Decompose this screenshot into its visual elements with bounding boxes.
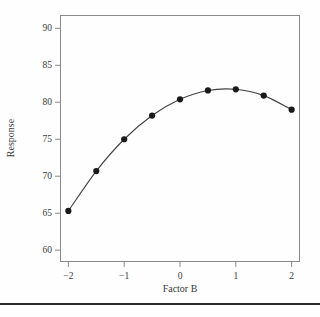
data-point-marker [65, 208, 71, 214]
y-tick-label: 70 [28, 171, 52, 181]
data-point-marker [177, 96, 183, 102]
y-tick-label: 90 [28, 23, 52, 33]
x-tick-label: 2 [289, 271, 294, 281]
response-curve-line [68, 89, 291, 211]
x-axis-title: Factor B [163, 283, 198, 294]
x-tick-label: −1 [119, 271, 129, 281]
x-tick-label: 0 [178, 271, 183, 281]
data-point-marker [261, 93, 267, 99]
figure-container: 60657075808590 −2−1012 Response Factor B [0, 0, 320, 317]
x-tick-label: −2 [63, 271, 73, 281]
y-tick-label: 75 [28, 134, 52, 144]
data-point-marker [233, 86, 239, 92]
y-axis-ticks [55, 28, 60, 250]
data-point-marker [289, 107, 295, 113]
x-axis-ticks [68, 262, 291, 267]
data-point-marker [205, 87, 211, 93]
data-point-marker [93, 168, 99, 174]
y-tick-label: 85 [28, 60, 52, 70]
y-tick-label: 80 [28, 97, 52, 107]
chart-canvas [0, 0, 320, 317]
x-tick-label: 1 [233, 271, 238, 281]
response-data-points [65, 86, 294, 214]
y-tick-label: 60 [28, 245, 52, 255]
bottom-divider-rule [0, 303, 320, 305]
data-point-marker [121, 136, 127, 142]
y-tick-label: 65 [28, 208, 52, 218]
data-point-marker [149, 112, 155, 118]
y-axis-title: Response [5, 119, 16, 157]
